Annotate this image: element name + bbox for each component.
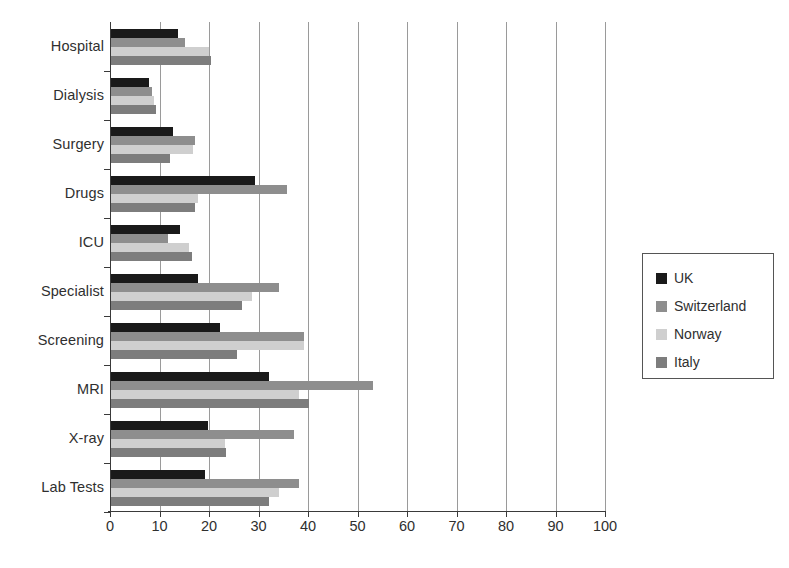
bar-group bbox=[111, 127, 605, 163]
bar-norway-surgery bbox=[111, 145, 193, 154]
legend-swatch-icon bbox=[656, 329, 667, 340]
legend-label: Switzerland bbox=[674, 298, 746, 314]
bar-group bbox=[111, 176, 605, 212]
y-axis-tick bbox=[104, 169, 111, 170]
bar-group bbox=[111, 29, 605, 65]
bar-uk-x-ray bbox=[111, 421, 208, 430]
y-axis-label-screening: Screening bbox=[4, 332, 104, 348]
y-axis-tick bbox=[104, 267, 111, 268]
y-axis-label-specialist: Specialist bbox=[4, 283, 104, 299]
y-axis-label-drugs: Drugs bbox=[4, 185, 104, 201]
bar-italy-x-ray bbox=[111, 448, 226, 457]
x-axis-tick bbox=[308, 511, 309, 517]
legend-label: Norway bbox=[674, 326, 721, 342]
x-axis-tick-label: 10 bbox=[151, 518, 167, 534]
bar-switzerland-lab-tests bbox=[111, 479, 299, 488]
bar-uk-drugs bbox=[111, 176, 255, 185]
bar-switzerland-screening bbox=[111, 332, 304, 341]
x-axis-line bbox=[108, 511, 605, 512]
bar-italy-dialysis bbox=[111, 105, 156, 114]
bar-switzerland-drugs bbox=[111, 185, 287, 194]
bar-switzerland-icu bbox=[111, 234, 168, 243]
bar-uk-specialist bbox=[111, 274, 198, 283]
y-axis-label-surgery: Surgery bbox=[4, 136, 104, 152]
bar-norway-mri bbox=[111, 390, 299, 399]
x-axis-tick bbox=[506, 511, 507, 517]
x-axis-tick-label: 60 bbox=[399, 518, 415, 534]
y-axis-tick bbox=[104, 120, 111, 121]
y-axis-tick bbox=[104, 414, 111, 415]
bar-uk-screening bbox=[111, 323, 220, 332]
bar-norway-hospital bbox=[111, 47, 209, 56]
x-axis-tick-label: 80 bbox=[498, 518, 514, 534]
x-axis-labels: 0102030405060708090100 bbox=[110, 518, 605, 544]
y-axis-tick bbox=[104, 365, 111, 366]
bar-uk-hospital bbox=[111, 29, 178, 38]
bar-chart: HospitalDialysisSurgeryDrugsICUSpecialis… bbox=[0, 0, 789, 568]
bar-uk-surgery bbox=[111, 127, 173, 136]
bar-switzerland-x-ray bbox=[111, 430, 294, 439]
bar-switzerland-dialysis bbox=[111, 87, 152, 96]
x-axis-tick-label: 30 bbox=[250, 518, 266, 534]
bar-group bbox=[111, 78, 605, 114]
bar-norway-x-ray bbox=[111, 439, 225, 448]
y-axis-labels: HospitalDialysisSurgeryDrugsICUSpecialis… bbox=[0, 22, 104, 512]
y-axis-label-mri: MRI bbox=[4, 381, 104, 397]
bar-italy-icu bbox=[111, 252, 192, 261]
x-axis-tick-label: 50 bbox=[349, 518, 365, 534]
y-axis-tick bbox=[104, 463, 111, 464]
bar-italy-hospital bbox=[111, 56, 211, 65]
bar-norway-screening bbox=[111, 341, 304, 350]
bar-norway-lab-tests bbox=[111, 488, 279, 497]
plot-area bbox=[110, 22, 605, 512]
bar-norway-dialysis bbox=[111, 96, 154, 105]
bar-italy-screening bbox=[111, 350, 237, 359]
y-axis-tick bbox=[104, 316, 111, 317]
legend-swatch-icon bbox=[656, 301, 667, 312]
legend-item-uk[interactable]: UK bbox=[656, 265, 773, 291]
x-axis-tick-label: 20 bbox=[201, 518, 217, 534]
bar-group bbox=[111, 421, 605, 457]
legend-label: UK bbox=[674, 270, 693, 286]
bar-group bbox=[111, 323, 605, 359]
y-axis-label-lab-tests: Lab Tests bbox=[4, 479, 104, 495]
y-axis-tick bbox=[104, 218, 111, 219]
y-axis-label-x-ray: X-ray bbox=[4, 430, 104, 446]
legend-item-switzerland[interactable]: Switzerland bbox=[656, 293, 773, 319]
y-axis-label-icu: ICU bbox=[4, 234, 104, 250]
y-axis-label-dialysis: Dialysis bbox=[4, 87, 104, 103]
y-axis-label-hospital: Hospital bbox=[4, 38, 104, 54]
chart-legend: UKSwitzerlandNorwayItaly bbox=[642, 253, 774, 379]
bar-norway-specialist bbox=[111, 292, 252, 301]
x-axis-tick-label: 70 bbox=[448, 518, 464, 534]
bar-switzerland-hospital bbox=[111, 38, 185, 47]
x-axis-tick-label: 40 bbox=[300, 518, 316, 534]
bar-norway-drugs bbox=[111, 194, 198, 203]
legend-swatch-icon bbox=[656, 273, 667, 284]
bar-italy-lab-tests bbox=[111, 497, 269, 506]
x-axis-tick-label: 90 bbox=[547, 518, 563, 534]
bar-switzerland-mri bbox=[111, 381, 373, 390]
x-axis-tick bbox=[556, 511, 557, 517]
y-axis-tick bbox=[104, 512, 111, 513]
bar-italy-drugs bbox=[111, 203, 195, 212]
legend-item-norway[interactable]: Norway bbox=[656, 321, 773, 347]
legend-label: Italy bbox=[674, 354, 700, 370]
x-axis-tick bbox=[209, 511, 210, 517]
bar-norway-icu bbox=[111, 243, 189, 252]
bar-uk-lab-tests bbox=[111, 470, 205, 479]
y-axis-tick bbox=[104, 71, 111, 72]
legend-item-italy[interactable]: Italy bbox=[656, 349, 773, 375]
x-axis-tick bbox=[407, 511, 408, 517]
bar-uk-icu bbox=[111, 225, 180, 234]
gridline bbox=[605, 22, 606, 512]
bar-group bbox=[111, 225, 605, 261]
bar-switzerland-specialist bbox=[111, 283, 279, 292]
x-axis-tick bbox=[358, 511, 359, 517]
bar-uk-mri bbox=[111, 372, 269, 381]
x-axis-tick bbox=[605, 511, 606, 517]
bar-group bbox=[111, 372, 605, 408]
bar-switzerland-surgery bbox=[111, 136, 195, 145]
bar-uk-dialysis bbox=[111, 78, 149, 87]
x-axis-tick-label: 100 bbox=[593, 518, 617, 534]
